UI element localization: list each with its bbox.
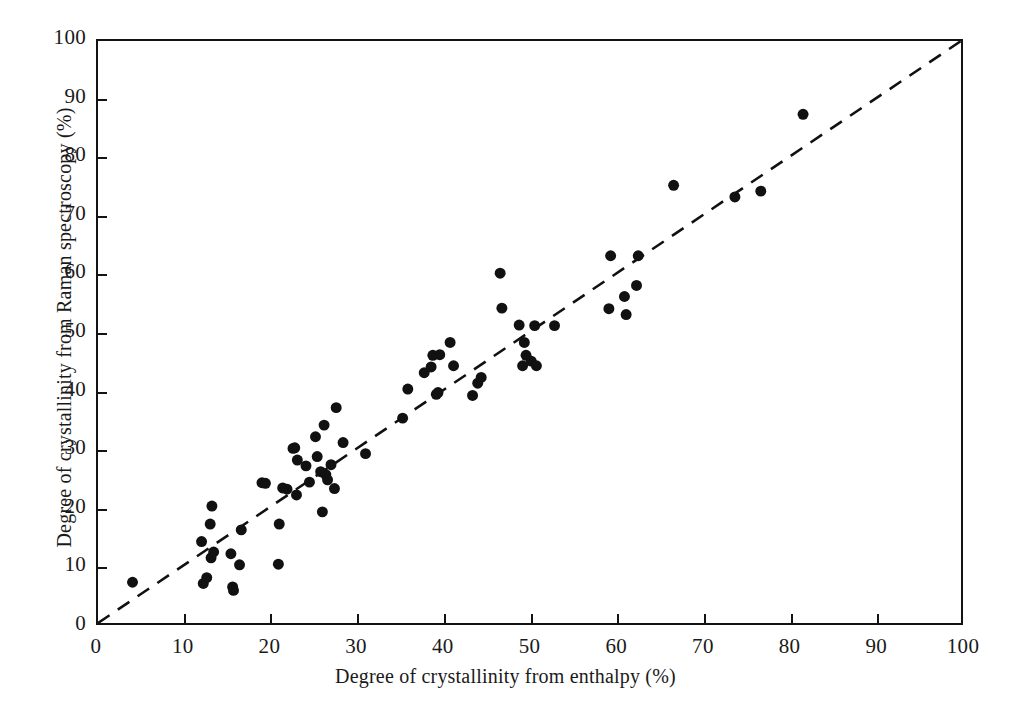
y-tick	[98, 333, 107, 335]
data-point	[291, 489, 302, 500]
chart-page: 0102030405060708090100 01020304050607080…	[0, 0, 1011, 717]
data-point	[476, 372, 487, 383]
y-tick	[98, 157, 107, 159]
data-point	[621, 309, 632, 320]
data-point	[282, 484, 293, 495]
data-point	[426, 361, 437, 372]
data-point	[467, 390, 478, 401]
data-point	[631, 280, 642, 291]
data-point	[205, 519, 216, 530]
x-tick-label: 10	[153, 634, 213, 659]
data-point	[326, 459, 337, 470]
y-tick	[98, 99, 107, 101]
data-point	[228, 585, 239, 596]
data-point	[495, 268, 506, 279]
data-point	[445, 337, 456, 348]
y-tick	[98, 274, 107, 276]
x-tick	[704, 614, 706, 623]
x-tick	[617, 614, 619, 623]
data-point	[668, 180, 679, 191]
x-tick	[791, 614, 793, 623]
y-tick	[98, 216, 107, 218]
x-tick-label: 90	[846, 634, 906, 659]
y-axis-title: Degree of crystallinity from Raman spect…	[53, 18, 76, 638]
x-tick	[877, 614, 879, 623]
x-tick	[531, 614, 533, 623]
x-tick-label: 100	[933, 634, 993, 659]
reference-line	[98, 41, 961, 623]
x-axis-title: Degree of crystallinity from enthalpy (%…	[0, 665, 1011, 688]
data-point	[529, 320, 540, 331]
x-tick	[184, 614, 186, 623]
data-points-group	[127, 109, 809, 596]
plot-area	[96, 39, 963, 625]
data-point	[531, 360, 542, 371]
data-point	[329, 483, 340, 494]
data-point	[301, 460, 312, 471]
data-point	[201, 572, 212, 583]
data-point	[514, 320, 525, 331]
data-point	[322, 474, 333, 485]
x-tick-label: 30	[326, 634, 386, 659]
x-tick-label: 0	[66, 634, 126, 659]
data-point	[433, 387, 444, 398]
data-point	[312, 451, 323, 462]
y-tick	[98, 392, 107, 394]
data-point	[434, 349, 445, 360]
x-tick-label: 40	[413, 634, 473, 659]
data-point	[196, 536, 207, 547]
scatter-plot-svg	[98, 41, 961, 623]
data-point	[289, 442, 300, 453]
data-point	[397, 413, 408, 424]
data-point	[234, 559, 245, 570]
data-point	[519, 337, 530, 348]
x-tick-label: 50	[500, 634, 560, 659]
data-point	[798, 109, 809, 120]
data-point	[274, 519, 285, 530]
data-point	[206, 501, 217, 512]
data-point	[331, 402, 342, 413]
x-tick-label: 20	[239, 634, 299, 659]
data-point	[729, 192, 740, 203]
data-point	[310, 431, 321, 442]
data-point	[496, 303, 507, 314]
x-tick-label: 70	[673, 634, 733, 659]
one-to-one-reference-line	[98, 41, 961, 623]
data-point	[260, 478, 271, 489]
y-tick	[98, 567, 107, 569]
data-point	[127, 577, 138, 588]
data-point	[317, 506, 328, 517]
data-point	[319, 420, 330, 431]
data-point	[304, 477, 315, 488]
data-point	[605, 250, 616, 261]
data-point	[755, 186, 766, 197]
y-tick	[98, 450, 107, 452]
x-tick	[357, 614, 359, 623]
data-point	[619, 291, 630, 302]
data-point	[603, 303, 614, 314]
y-tick	[98, 509, 107, 511]
x-tick	[444, 614, 446, 623]
data-point	[236, 524, 247, 535]
data-point	[225, 548, 236, 559]
x-tick	[270, 614, 272, 623]
data-point	[549, 320, 560, 331]
data-point	[338, 437, 349, 448]
data-point	[208, 547, 219, 558]
data-point	[448, 360, 459, 371]
data-point	[633, 250, 644, 261]
x-tick-label: 60	[586, 634, 646, 659]
x-tick-label: 80	[760, 634, 820, 659]
data-point	[360, 448, 371, 459]
data-point	[402, 384, 413, 395]
data-point	[273, 559, 284, 570]
